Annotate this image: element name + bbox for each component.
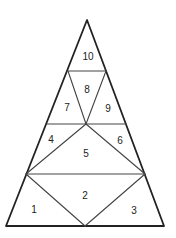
- edge-2-left: [26, 174, 85, 226]
- region-label-6: 6: [117, 135, 123, 146]
- region-label-3: 3: [131, 205, 137, 216]
- edge-5-left: [26, 124, 86, 174]
- edge-2-right: [85, 174, 145, 226]
- region-label-8: 8: [84, 84, 90, 95]
- region-label-9: 9: [105, 103, 111, 114]
- region-label-5: 5: [83, 148, 89, 159]
- edge-8-right: [86, 71, 106, 124]
- region-label-7: 7: [64, 102, 70, 113]
- region-label-2: 2: [82, 190, 88, 201]
- region-label-10: 10: [82, 51, 94, 62]
- subdivided-triangle-diagram: 1 2 3 4 5 6 7 8 9 10: [0, 0, 176, 238]
- region-label-4: 4: [48, 134, 54, 145]
- region-label-1: 1: [31, 204, 37, 215]
- edge-8-left: [68, 71, 86, 124]
